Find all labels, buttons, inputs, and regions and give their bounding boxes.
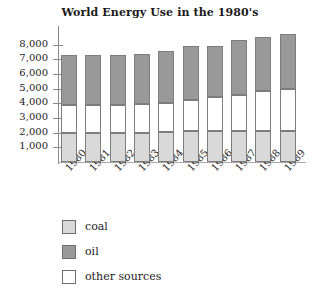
bar-segment-coal	[134, 133, 150, 162]
y-tick-label: 8,000	[19, 38, 48, 49]
bar-segment-other-sources	[134, 104, 150, 133]
bar-segment-oil	[85, 55, 101, 105]
legend-label: other sources	[85, 270, 161, 283]
bar-segment-other-sources	[231, 95, 247, 132]
bar-1986	[207, 46, 223, 162]
chart-title: World Energy Use in the 1980's	[0, 6, 320, 19]
bar-segment-coal	[61, 133, 77, 162]
bar-1987	[231, 40, 247, 162]
bar-segment-oil	[231, 40, 247, 94]
plot-area	[58, 30, 306, 162]
legend-swatch-coal	[62, 220, 76, 234]
bar-segment-coal	[255, 131, 271, 162]
y-tick: 4,000	[0, 103, 58, 104]
y-tick-label: 2,000	[19, 126, 48, 137]
bar-segment-other-sources	[158, 103, 174, 132]
bar-segment-other-sources	[255, 91, 271, 131]
y-tick-label: 7,000	[19, 52, 48, 63]
bar-1989	[280, 34, 296, 162]
legend-label: oil	[85, 245, 99, 258]
bar-segment-coal	[207, 131, 223, 162]
y-tick-label: 6,000	[19, 67, 48, 78]
y-tick: 1,000	[0, 147, 58, 148]
y-tick: 7,000	[0, 59, 58, 60]
bar-segment-oil	[255, 37, 271, 91]
bar-segment-other-sources	[110, 105, 126, 133]
chart-figure: World Energy Use in the 1980's 8,0007,00…	[0, 0, 320, 300]
bar-1983	[134, 54, 150, 162]
legend-item-coal: coal	[62, 214, 161, 239]
legend-swatch-other-sources	[62, 270, 76, 284]
bar-1988	[255, 37, 271, 162]
bar-segment-other-sources	[85, 105, 101, 133]
bar-segment-coal	[231, 131, 247, 162]
bar-segment-other-sources	[183, 100, 199, 131]
bar-segment-coal	[85, 133, 101, 162]
bar-segment-oil	[158, 51, 174, 102]
y-tick: 2,000	[0, 133, 58, 134]
y-tick: 5,000	[0, 89, 58, 90]
bar-1984	[158, 51, 174, 162]
bar-segment-other-sources	[280, 89, 296, 132]
bar-segment-coal	[158, 132, 174, 162]
y-tick-label: 4,000	[19, 96, 48, 107]
bar-segment-other-sources	[61, 105, 77, 133]
legend-item-oil: oil	[62, 239, 161, 264]
y-tick: 6,000	[0, 74, 58, 75]
y-tick: 8,000	[0, 45, 58, 46]
bar-segment-coal	[110, 133, 126, 162]
bar-1985	[183, 46, 199, 162]
bar-1981	[85, 55, 101, 162]
bar-segment-other-sources	[207, 97, 223, 131]
y-tick-label: 1,000	[19, 140, 48, 151]
bar-segment-coal	[183, 131, 199, 162]
bar-segment-oil	[61, 55, 77, 105]
legend-item-other-sources: other sources	[62, 264, 161, 289]
bar-1982	[110, 55, 126, 162]
bar-segment-oil	[134, 54, 150, 104]
y-tick-label: 5,000	[19, 82, 48, 93]
chart-legend: coaloilother sources	[62, 214, 161, 289]
y-tick-label: 3,000	[19, 111, 48, 122]
bar-segment-oil	[183, 46, 199, 100]
bar-segment-oil	[280, 34, 296, 88]
bar-segment-oil	[110, 55, 126, 105]
bar-segment-coal	[280, 131, 296, 162]
legend-swatch-oil	[62, 245, 76, 259]
y-tick: 3,000	[0, 118, 58, 119]
bar-segment-oil	[207, 46, 223, 97]
legend-label: coal	[85, 220, 108, 233]
bar-1980	[61, 55, 77, 162]
